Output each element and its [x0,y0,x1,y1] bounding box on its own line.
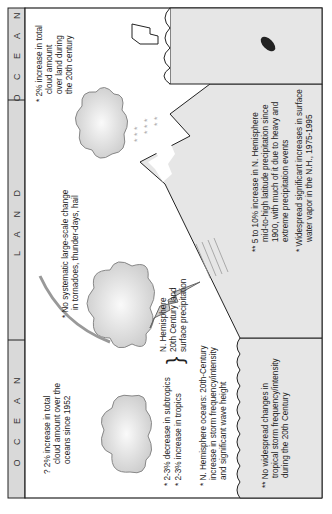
annotation-line: surface precipitation [179,278,188,352]
annotation-line: * N. Hemisphere oceans: 20th-Century [199,344,208,486]
annotation-line: over land during [55,35,64,94]
annotation-line: water vapor in the N.H., 1975-1995 [305,114,314,243]
header-ocean-left: O C E A N [12,371,22,466]
annotation-land-cloud: * 2% increase in total cloud amount over… [35,25,74,102]
brace-icon: } [162,357,187,364]
annotation-ocean-cloud: ? 2% increase in total cloud amount over… [43,383,72,474]
annotation-line: * 2-3% increase in tropics [174,393,183,486]
svg-text:* * *: * * * [132,126,142,142]
header-land: L A N D [12,184,22,256]
annotation-line: N. Hemisphere [159,297,168,352]
annotation-tornadoes: * No systematic large-scale change in to… [61,189,80,318]
annotation-line: * 2-3% decrease in subtropics [163,377,172,486]
annotation-line: ** 5 to 10% increase in N. Hemisphere [251,112,260,252]
annotation-line: 20th Century land [169,287,178,352]
annotation-line: in tornadoes, thunder-days, hail [71,195,80,310]
annotation-line: increase in storm frequency/intensity [209,346,218,480]
annotation-line: extreme precipitation events [281,140,290,242]
ocean-water-right [170,8,322,84]
annotation-line: * No systematic large-scale change [61,189,70,318]
annotation-line: ** No widespread changes in [261,382,270,488]
annotation-line: ? 2% increase in total [43,396,52,474]
svg-text:* * *: * * * [142,118,152,134]
annotation-line: mid-to-high latitude precipitation since [261,104,270,242]
annotation-line: 1900, with much of it due to heavy and [271,101,280,242]
annotation-line: cloud amount [45,44,54,94]
diagram-stage: O C E A N L A N D O C E A N * * * * * * … [0,0,332,514]
annotation-line: the 20th century [65,34,74,94]
annotation-line: * 2% increase in total [35,25,44,102]
annotation-line: oceans since 1952 [63,395,72,464]
annotation-line: tropical storm frequency/intensity [271,357,280,478]
svg-text:* *: * * [152,116,162,126]
header-ocean-right: O C E A N [12,6,22,101]
annotation-line: * Widespread significant increases in su… [295,89,304,252]
climate-change-diagram: O C E A N L A N D O C E A N * * * * * * … [0,0,332,514]
annotation-line: during the 20th Century [281,392,290,478]
annotation-line: and significant wave height [219,381,228,480]
annotation-line: cloud amount over the [53,383,62,464]
